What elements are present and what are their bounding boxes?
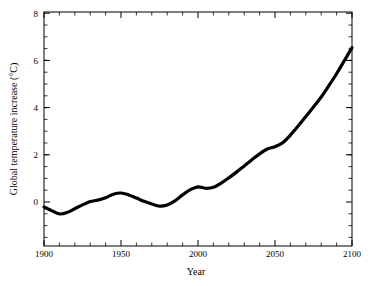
- y-tick-label-4: 4: [34, 103, 39, 113]
- x-tick-label-2050: 2050: [266, 249, 285, 259]
- x-axis-label: Year: [187, 266, 206, 277]
- x-tick-label-1900: 1900: [35, 249, 54, 259]
- chart-figure: 0 2 4 6 8 1900 1950 2000 2050 2100 Year …: [0, 0, 372, 286]
- y-tick-label-8: 8: [34, 9, 39, 19]
- y-tick-label-0: 0: [34, 197, 39, 207]
- y-axis-label: Global temperature increase (°C): [8, 63, 20, 196]
- temperature-line-chart: 0 2 4 6 8 1900 1950 2000 2050 2100 Year …: [0, 0, 372, 286]
- y-tick-label-6: 6: [34, 56, 39, 66]
- plot-frame: [44, 12, 352, 246]
- x-tick-label-1950: 1950: [112, 249, 131, 259]
- y-tick-label-2: 2: [34, 150, 39, 160]
- x-tick-label-2100: 2100: [343, 249, 362, 259]
- x-tick-label-2000: 2000: [189, 249, 208, 259]
